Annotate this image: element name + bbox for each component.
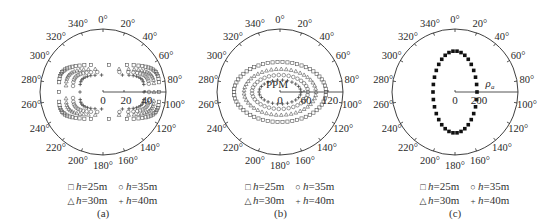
legend-row: □h=25m ○h=35m xyxy=(66,180,163,194)
angle-label: 40° xyxy=(320,31,335,42)
triangle-marker xyxy=(279,113,283,116)
square-marker xyxy=(308,113,311,116)
triangle-marker-icon: △ xyxy=(66,195,76,208)
square-marker xyxy=(107,117,110,120)
square-marker xyxy=(304,66,307,69)
circle-marker xyxy=(272,74,276,78)
angle-tick xyxy=(494,44,496,46)
angle-tick xyxy=(240,138,242,140)
triangle-marker xyxy=(289,68,293,71)
square-marker xyxy=(300,117,303,120)
plus-marker xyxy=(131,107,135,111)
angle-tick xyxy=(218,81,221,82)
plus-marker xyxy=(142,83,146,87)
plus-marker xyxy=(78,90,82,94)
angle-label: 0° xyxy=(275,14,284,25)
filled-square-marker xyxy=(447,51,451,55)
angle-tick xyxy=(258,33,259,36)
square-marker xyxy=(295,63,298,66)
square-marker xyxy=(276,120,279,123)
angle-tick xyxy=(433,148,434,151)
circle-marker xyxy=(95,70,99,74)
angle-label: 20° xyxy=(298,18,313,29)
angle-tick xyxy=(124,148,125,151)
legend-item-h25: □h=25m xyxy=(418,180,459,194)
square-marker xyxy=(107,63,110,66)
plus-marker xyxy=(121,107,125,111)
circle-marker xyxy=(72,80,76,84)
circle-marker xyxy=(95,110,99,114)
plus-marker xyxy=(93,73,97,77)
legend-value: =30m xyxy=(259,194,285,206)
angle-label: 0° xyxy=(98,14,107,25)
filled-square-marker xyxy=(455,131,459,135)
plus-marker xyxy=(135,106,139,110)
legend-a: □h=25m ○h=35m △h=30m +h=40m xyxy=(66,180,163,208)
plus-marker xyxy=(78,98,82,102)
triangle-marker xyxy=(65,77,69,80)
legend-item-h35: ○h=35m xyxy=(293,180,334,194)
filled-square-marker xyxy=(455,49,459,53)
circle-marker xyxy=(118,70,122,74)
angle-label: 40° xyxy=(143,31,158,42)
triangle-marker xyxy=(132,67,136,70)
plus-marker xyxy=(257,90,261,94)
square-marker xyxy=(253,66,256,69)
triangle-marker xyxy=(274,67,278,70)
angle-label: 220° xyxy=(223,142,243,153)
plus-marker xyxy=(271,101,275,105)
triangle-marker xyxy=(279,67,283,70)
angle-label: 320° xyxy=(398,31,418,42)
plus-marker-icon: + xyxy=(468,195,478,208)
triangle-marker xyxy=(64,96,68,99)
triangle-marker xyxy=(314,93,318,96)
square-marker xyxy=(58,100,61,103)
square-marker xyxy=(137,117,140,120)
angle-label: 120° xyxy=(156,123,176,134)
triangle-marker xyxy=(298,109,302,112)
angle-tick xyxy=(332,61,335,63)
legend-item-h25: □h=25m xyxy=(243,180,284,194)
triangle-marker xyxy=(82,68,86,71)
square-marker xyxy=(245,111,248,114)
angle-label: 280° xyxy=(198,74,218,85)
angle-tick xyxy=(301,33,302,36)
square-marker-icon: □ xyxy=(243,181,253,194)
legend-value: =25m xyxy=(259,180,285,192)
square-marker xyxy=(132,64,135,67)
triangle-marker xyxy=(82,112,86,115)
filled-square-marker xyxy=(451,49,455,53)
square-marker xyxy=(266,61,269,64)
angle-tick xyxy=(415,44,417,46)
plus-marker xyxy=(100,107,104,111)
square-marker xyxy=(249,68,252,71)
filled-square-marker xyxy=(463,53,467,57)
square-marker xyxy=(312,111,315,114)
triangle-marker xyxy=(306,75,310,78)
circle-marker xyxy=(132,71,136,75)
circle-marker xyxy=(89,110,93,114)
circle-marker xyxy=(72,100,76,104)
angle-label: 20° xyxy=(121,18,136,29)
circle-marker xyxy=(291,105,295,109)
angle-tick xyxy=(433,33,434,36)
plus-marker xyxy=(78,83,82,87)
angle-tick xyxy=(63,44,65,46)
legend-value: =25m xyxy=(82,180,108,192)
triangle-marker xyxy=(152,99,156,102)
plus-marker xyxy=(290,100,294,104)
angle-tick xyxy=(81,148,82,151)
filled-square-marker xyxy=(472,112,476,116)
legend-item-h30: △h=30m xyxy=(243,194,284,208)
angle-tick xyxy=(155,61,158,63)
angle-tick xyxy=(41,102,44,103)
filled-square-marker xyxy=(434,112,438,116)
angle-tick xyxy=(319,44,321,46)
plus-marker xyxy=(262,98,266,102)
angle-label: 60° xyxy=(159,50,174,61)
circle-marker xyxy=(296,103,300,107)
plus-marker xyxy=(258,87,262,91)
legend-row: □h=25m ○h=35m xyxy=(418,180,515,194)
angle-tick xyxy=(507,61,510,63)
angle-label: 100° xyxy=(517,99,537,110)
